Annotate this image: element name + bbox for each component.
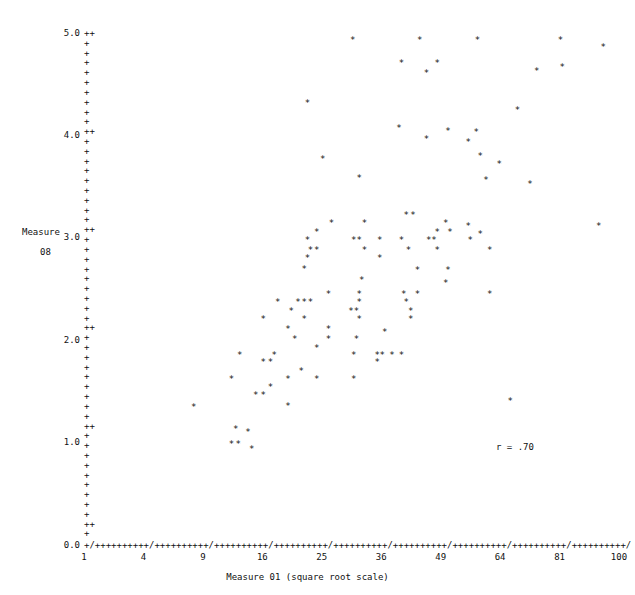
data-point: * [527, 180, 532, 189]
data-point: * [356, 315, 361, 324]
data-point: * [468, 236, 473, 245]
data-point: * [362, 219, 367, 228]
data-point: * [403, 211, 408, 220]
data-point: * [415, 290, 420, 299]
x-tick-label-36: 36 [361, 553, 401, 562]
data-point: * [379, 351, 384, 360]
data-point: * [417, 36, 422, 45]
x-tick-label-4: 4 [123, 553, 163, 562]
data-point: * [443, 279, 448, 288]
data-point: * [253, 391, 258, 400]
data-point: * [362, 246, 367, 255]
x-tick-label-64: 64 [480, 553, 520, 562]
y-tick-label-5-0: 5.0 [40, 29, 80, 38]
data-point: * [308, 298, 313, 307]
data-point: * [496, 160, 501, 169]
data-point: * [445, 127, 450, 136]
data-point: * [292, 335, 297, 344]
data-point: * [249, 445, 254, 454]
data-point: * [314, 375, 319, 384]
data-point: * [302, 298, 307, 307]
data-point: * [389, 351, 394, 360]
data-point: * [261, 315, 266, 324]
data-point: * [261, 391, 266, 400]
data-point: * [382, 328, 387, 337]
data-point: * [483, 176, 488, 185]
data-point: * [508, 397, 513, 406]
data-point: * [431, 236, 436, 245]
data-point: * [350, 36, 355, 45]
x-tick-label-81: 81 [540, 553, 580, 562]
y-axis-title-line1: Measure [22, 228, 60, 237]
data-point: * [435, 246, 440, 255]
x-tick-label-1: 1 [64, 553, 104, 562]
data-point: * [435, 59, 440, 68]
data-point: * [445, 266, 450, 275]
data-point: * [268, 358, 273, 367]
data-point: * [359, 276, 364, 285]
data-point: * [399, 59, 404, 68]
data-point: * [233, 425, 238, 434]
data-point: * [298, 367, 303, 376]
data-point: * [329, 219, 334, 228]
data-point: * [305, 99, 310, 108]
data-point: * [305, 254, 310, 263]
data-point: * [289, 307, 294, 316]
data-point: * [351, 375, 356, 384]
data-point: * [559, 63, 564, 72]
data-point: * [415, 266, 420, 275]
data-point: * [558, 36, 563, 45]
data-point: * [487, 246, 492, 255]
data-point: * [474, 128, 479, 137]
data-point: * [424, 69, 429, 78]
data-point: * [285, 402, 290, 411]
x-tick-label-25: 25 [302, 553, 342, 562]
data-point: * [320, 155, 325, 164]
data-point: * [410, 211, 415, 220]
y-tick-label-4-0: 4.0 [40, 131, 80, 140]
data-point: * [477, 152, 482, 161]
data-point: * [237, 351, 242, 360]
data-point: * [295, 298, 300, 307]
data-point: * [326, 335, 331, 344]
x-tick-label-100: 100 [599, 553, 635, 562]
data-point: * [356, 236, 361, 245]
data-point: * [596, 222, 601, 231]
y-axis-line: ++ + + + + + + + + + ++ + + + + + + + + … [84, 29, 95, 539]
data-point: * [268, 383, 273, 392]
data-point: * [487, 290, 492, 299]
data-point: * [601, 43, 606, 52]
x-axis-line: +/++++++++++/++++++++++/++++++++++/+++++… [84, 541, 631, 550]
data-point: * [229, 375, 234, 384]
data-point: * [314, 344, 319, 353]
y-tick-label-2-0: 2.0 [40, 336, 80, 345]
x-axis-title: Measure 01 (square root scale) [0, 573, 615, 582]
data-point: * [534, 67, 539, 76]
data-point: * [466, 222, 471, 231]
data-point: * [396, 124, 401, 133]
data-point: * [466, 138, 471, 147]
data-point: * [305, 236, 310, 245]
x-tick-label-49: 49 [421, 553, 461, 562]
data-point: * [285, 325, 290, 334]
data-point: * [377, 254, 382, 263]
y-tick-label-0-0: 0.0 [40, 541, 80, 550]
data-point: * [399, 351, 404, 360]
data-point: * [314, 246, 319, 255]
data-point: * [326, 290, 331, 299]
x-tick-label-9: 9 [183, 553, 223, 562]
data-point: * [515, 106, 520, 115]
data-point: * [285, 375, 290, 384]
data-point: * [275, 298, 280, 307]
data-point: * [406, 246, 411, 255]
data-point: * [399, 236, 404, 245]
y-axis-title-line2: 08 [40, 248, 51, 257]
data-point: * [354, 335, 359, 344]
data-point: * [229, 440, 234, 449]
data-point: * [245, 428, 250, 437]
data-point: * [314, 228, 319, 237]
data-point: * [302, 265, 307, 274]
data-point: * [191, 403, 196, 412]
data-point: * [351, 351, 356, 360]
